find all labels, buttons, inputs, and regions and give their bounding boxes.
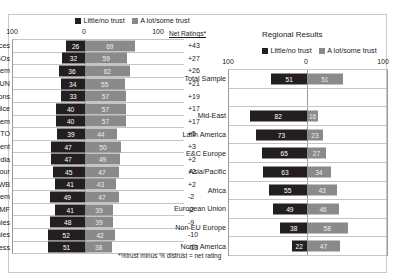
net-rating-value: +19 [188, 90, 200, 102]
row-label: E&C Europe [186, 144, 226, 162]
legend-label-grey: A lot/some trust [140, 16, 190, 25]
chart-row: Health system4057+17 [13, 116, 184, 129]
institutions-plot-area: Armed forces2669+43NGOs3259+27Education … [12, 39, 184, 254]
legend-item-little-no-trust: Little/no trust [75, 16, 125, 25]
chart-row: Africa5543 [229, 182, 387, 201]
axis-tick-right-100: 100 [222, 58, 234, 65]
axis-tick-right-0: 0 [304, 58, 308, 65]
bar-lot-some-trust: 38 [85, 242, 112, 253]
bar-group: 4749 [51, 154, 120, 165]
bar-group: 4057 [56, 116, 126, 127]
footnote: *%trust minus % distrust = net rating [118, 252, 221, 259]
bar-group: 3455 [61, 78, 125, 89]
chart-row: European Union4946 [229, 200, 387, 219]
bar-little-no-trust: 51 [48, 242, 85, 253]
bar-lot-some-trust: 39 [85, 204, 113, 215]
chart-row: WTO3944+5 [13, 128, 184, 141]
chart-row: E&C Europe6527 [229, 144, 387, 163]
axis-tick-right-100b: 100 [377, 58, 389, 65]
bar-group: 4547 [53, 166, 119, 177]
bar-lot-some-trust: 23 [307, 129, 323, 140]
bar-group: 5242 [48, 229, 116, 240]
bar-little-no-trust: 39 [57, 128, 85, 139]
bar-little-no-trust: 32 [62, 53, 85, 64]
bar-group: 3259 [62, 53, 128, 64]
row-label: Police [0, 103, 10, 115]
bar-group: 2669 [66, 40, 134, 51]
chart-row: WB4143+2 [13, 179, 184, 192]
row-label: Religious institutions [0, 90, 10, 102]
bar-lot-some-trust: 46 [307, 203, 339, 214]
chart-row: Asia/Pacific6334 [229, 163, 387, 182]
bar-little-no-trust: 40 [56, 116, 85, 127]
bar-group: 4750 [51, 141, 121, 152]
top-divider [8, 14, 387, 15]
bar-group: 3662 [59, 65, 130, 76]
bar-group: 8216 [250, 110, 319, 121]
bar-little-no-trust: 34 [61, 78, 85, 89]
bar-lot-some-trust: 39 [85, 217, 113, 228]
bar-group: 3944 [57, 128, 117, 139]
net-rating-value: +27 [188, 53, 200, 65]
bar-little-no-trust: 38 [280, 222, 307, 233]
row-label: Global companies [0, 216, 10, 228]
bar-little-no-trust: 65 [262, 148, 308, 159]
bar-little-no-trust: 48 [50, 217, 85, 228]
chart-row: Government4750+3 [13, 141, 184, 154]
bar-group: 6334 [263, 166, 331, 177]
axis-tick-left-100b: 100 [152, 28, 164, 35]
bar-lot-some-trust: 51 [307, 73, 343, 84]
bar-lot-some-trust: 59 [85, 53, 127, 64]
bar-little-no-trust: 73 [256, 129, 307, 140]
row-label: WTO [0, 128, 10, 140]
row-label: NGOs [0, 53, 10, 65]
row-label: WB [0, 179, 10, 191]
chart-row: North America2247 [229, 237, 387, 256]
institutions-trust-chart: 100 0 100 Net Ratings* Armed forces2669+… [12, 28, 184, 254]
bar-little-no-trust: 82 [250, 110, 307, 121]
row-label: UN [0, 78, 10, 90]
chart-row: Latin America7323 [229, 126, 387, 145]
bar-lot-some-trust: 58 [307, 222, 348, 233]
chart-row: Global companies4839-9 [13, 216, 184, 229]
bar-group: 4057 [56, 103, 126, 114]
bar-lot-some-trust: 34 [307, 166, 331, 177]
bar-group: 3858 [280, 222, 347, 233]
chart-row: Press/media4749+2 [13, 153, 184, 166]
bar-group: 4139 [55, 204, 113, 215]
bar-little-no-trust: 49 [50, 191, 85, 202]
bar-group: 4946 [273, 203, 339, 214]
axis-tick-left-100: 100 [6, 28, 18, 35]
bar-group: 7323 [256, 129, 323, 140]
bar-little-no-trust: 36 [59, 65, 85, 76]
bar-lot-some-trust: 47 [307, 241, 340, 252]
net-rating-value: +43 [188, 40, 200, 52]
row-label: Total Sample [184, 70, 226, 88]
bar-group: 5543 [269, 185, 338, 196]
row-label: Press/media [0, 153, 10, 165]
bar-lot-some-trust: 62 [85, 65, 130, 76]
bar-lot-some-trust: 50 [85, 141, 121, 152]
bar-group: 5151 [271, 73, 342, 84]
chart-row: IMF4139-2 [13, 204, 184, 217]
chart-page: Little/no trust A lot/some trust 100 0 1… [0, 0, 395, 279]
row-label: European Union [174, 200, 226, 218]
bar-little-no-trust: 55 [269, 185, 308, 196]
row-label: Mid-East [198, 107, 226, 125]
chart-row: Mid-East8216 [229, 107, 387, 126]
row-label: Trade unions/labour [0, 166, 10, 178]
row-label: Government [0, 141, 10, 153]
bar-little-no-trust: 45 [53, 166, 85, 177]
legend-label-dark: Little/no trust [84, 16, 125, 25]
legend-item-little-no-trust-right: Little/no trust [262, 46, 312, 55]
bar-group: 5138 [48, 242, 112, 253]
regional-results-title: Regional Results [262, 30, 322, 39]
row-label: Latin America [182, 126, 226, 144]
legend-label-grey-right: A lot/some trust [327, 46, 377, 55]
bar-lot-some-trust: 44 [85, 128, 117, 139]
legend-right: Little/no trust A lot/some trust [262, 46, 377, 55]
regional-plot-area: Total Sample5151Mid-East8216Latin Americ… [228, 69, 388, 256]
bar-little-no-trust: 41 [55, 204, 85, 215]
bar-group: 4947 [50, 191, 119, 202]
regional-results-chart: 100 0 100 Total Sample5151Mid-East8216La… [228, 58, 388, 256]
